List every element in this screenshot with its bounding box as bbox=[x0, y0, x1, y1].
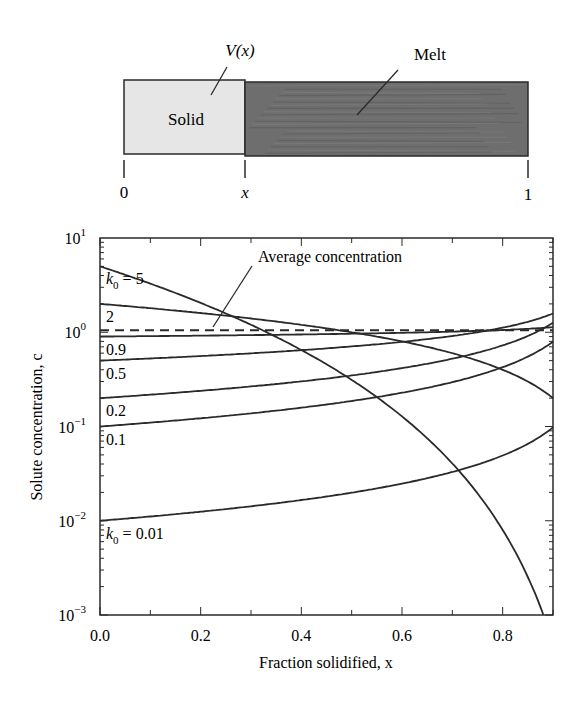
series-label: k0 = 5 bbox=[106, 270, 144, 291]
x-tick-label: 0.8 bbox=[493, 627, 513, 644]
melt-label: Melt bbox=[414, 45, 446, 64]
solidification-diagram: Solid Melt V(x) 0 x 1 bbox=[120, 41, 533, 204]
y-axis-label: Solute concentration, c bbox=[28, 353, 45, 500]
x-tick-label: 0.0 bbox=[90, 627, 110, 644]
y-tick-label: 10−3 bbox=[58, 603, 86, 624]
y-tick-label: 101 bbox=[65, 226, 87, 247]
x-tick-label: 0.2 bbox=[191, 627, 211, 644]
figure: Solid Melt V(x) 0 x 1 10−310−210−1100101… bbox=[0, 0, 583, 714]
y-tick-label: 10−1 bbox=[58, 415, 86, 436]
x-tick-label: 0.6 bbox=[392, 627, 412, 644]
x-axis-ticks bbox=[100, 238, 553, 615]
series-label: k0 = 0.01 bbox=[106, 525, 164, 546]
x-tick-label: 0.4 bbox=[291, 627, 311, 644]
series-label: 2 bbox=[106, 308, 114, 325]
series-label: 0.1 bbox=[106, 431, 126, 448]
series-line bbox=[100, 266, 544, 615]
x-axis-label: Fraction solidified, x bbox=[259, 654, 393, 671]
series-line bbox=[100, 314, 553, 361]
solid-label: Solid bbox=[168, 110, 204, 129]
y-tick-label: 10−2 bbox=[58, 509, 86, 530]
series-label: 0.2 bbox=[106, 402, 126, 419]
plot-frame bbox=[100, 238, 553, 615]
y-axis-tick-labels: 10−310−210−1100101 bbox=[58, 226, 86, 624]
y-axis-ticks bbox=[100, 242, 553, 615]
series-label: 0.5 bbox=[106, 365, 126, 382]
data-series bbox=[100, 266, 553, 615]
interface-label: V(x) bbox=[225, 41, 255, 60]
concentration-chart: 10−310−210−1100101 0.00.20.40.60.8 k0 = … bbox=[28, 226, 553, 671]
series-label: 0.9 bbox=[106, 341, 126, 358]
series-line bbox=[100, 427, 553, 520]
x-axis-tick-labels: 0.00.20.40.60.8 bbox=[90, 627, 513, 644]
average-concentration-annotation: Average concentration bbox=[258, 248, 402, 266]
diagram-tick-label-x: x bbox=[240, 183, 249, 202]
diagram-tick-label-0: 0 bbox=[120, 183, 129, 202]
y-tick-label: 100 bbox=[65, 320, 87, 341]
series-line bbox=[100, 342, 553, 427]
diagram-tick-label-1: 1 bbox=[524, 185, 533, 204]
series-labels: k0 = 520.90.50.20.1k0 = 0.01 bbox=[106, 270, 164, 545]
